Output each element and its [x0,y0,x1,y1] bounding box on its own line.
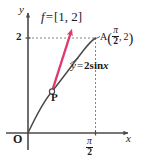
point-a-fraction-pi-over-2: π 2 [112,26,119,46]
curve-equation-equals: = [77,59,83,71]
point-a-fraction-denominator: 2 [112,37,119,47]
vector-f-symbol: f [41,9,45,24]
fraction-denominator: 2 [86,148,93,158]
curve-y-equals-2sinx [28,38,96,133]
vector-f-value: [1, 2] [54,9,82,24]
point-a-label: A( π 2 ,2) [100,27,133,47]
x-tick-label-pi-over-2: π 2 [86,138,93,158]
fraction-pi-over-2: π 2 [86,137,93,157]
curve-equation-rhs: 2sin [84,59,103,71]
point-a-name: A [100,32,107,42]
curve-equation-label: y=2sinx [71,60,109,71]
curve-equation-variable: x [103,59,109,71]
point-a-comma: , [119,32,122,42]
x-axis-label: x [126,133,131,144]
fraction-numerator: π [86,137,93,147]
vector-f-equals: = [46,9,53,24]
vector-f-label: f=[1, 2] [41,10,82,23]
y-tick-label-2: 2 [16,31,22,42]
y-axis-label: y [19,4,24,15]
curve-equation-lhs: y [71,59,76,71]
math-figure: y x O 2 π 2 f=[1, 2] A( π 2 ,2) P y=2sin… [0,0,145,164]
origin-label: O [13,133,22,145]
point-p-label: P [51,92,58,103]
point-a-fraction-numerator: π [112,26,119,36]
point-a-paren-close: ) [129,33,134,43]
vector-f-arrow[interactable] [52,34,71,92]
